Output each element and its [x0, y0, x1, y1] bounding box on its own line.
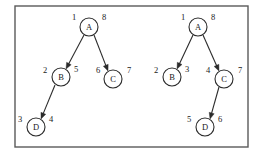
- right-graph-node-B-discovery-time: 2: [154, 65, 158, 75]
- left-graph-node-D-discovery-time: 3: [18, 114, 22, 124]
- left-graph-node-C-finish-time: 7: [127, 65, 131, 75]
- right-graph-node-B-label: B: [169, 72, 175, 82]
- right-graph-node-A-label: A: [195, 22, 202, 32]
- left-graph-node-C-label: C: [110, 74, 116, 84]
- left-graph-node-B-finish-time: 5: [74, 64, 78, 74]
- right-graph-node-C-label: C: [221, 74, 227, 84]
- left-graph-node-C-discovery-time: 6: [96, 65, 100, 75]
- left-graph-node-A-label: A: [86, 22, 93, 32]
- left-graph-node-B-discovery-time: 2: [43, 65, 47, 75]
- left-graph-node-A-finish-time: 8: [102, 12, 106, 22]
- right-graph-node-B-finish-time: 3: [185, 64, 189, 74]
- right-graph-node-C-finish-time: 7: [238, 65, 242, 75]
- left-graph-node-B-label: B: [58, 72, 64, 82]
- left-graph-node-A-discovery-time: 1: [72, 12, 76, 22]
- left-graph-node-D-label: D: [33, 122, 39, 132]
- right-graph-node-A-finish-time: 8: [211, 12, 215, 22]
- right-graph-node-D-discovery-time: 5: [187, 114, 191, 124]
- graph-diagram: A18B25C67D34A18B23C47D56: [0, 0, 263, 155]
- right-graph-node-D-finish-time: 6: [218, 114, 222, 124]
- right-graph-node-D-label: D: [202, 122, 208, 132]
- figure-container: A18B25C67D34A18B23C47D56: [0, 0, 263, 155]
- right-graph-node-A-discovery-time: 1: [181, 12, 185, 22]
